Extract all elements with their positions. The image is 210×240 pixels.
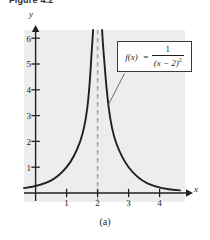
formula-callout-box: f(x) = 1 (x − 2)2	[117, 41, 192, 72]
formula-denominator-exponent: 2	[179, 57, 182, 63]
x-axis-arrowhead	[186, 189, 193, 196]
figure-container: Figure 4.2	[0, 0, 210, 240]
formula-fraction-bar	[152, 55, 184, 56]
callout-leader-line	[109, 74, 125, 105]
y-tick-label-2: 2	[19, 137, 31, 147]
formula-denominator: (x − 2)2	[152, 57, 184, 68]
x-tick-label-4: 4	[153, 198, 167, 208]
formula-equals-sign: =	[143, 52, 149, 62]
formula-expression: f(x) = 1 (x − 2)2	[118, 42, 191, 71]
x-tick-label-3: 3	[122, 198, 136, 208]
y-tick-label-5: 5	[19, 59, 31, 69]
formula-fraction: 1 (x − 2)2	[152, 45, 184, 69]
formula-function-name: f(x)	[125, 52, 138, 62]
x-tick-label-2: 2	[91, 198, 105, 208]
y-tick-label-4: 4	[19, 85, 31, 95]
y-axis-arrowhead	[32, 25, 39, 32]
x-tick-label-1: 1	[60, 198, 74, 208]
y-tick-label-1: 1	[19, 163, 31, 173]
y-tick-label-3: 3	[19, 111, 31, 121]
y-tick-label-6: 6	[19, 34, 31, 44]
x-axis-label: x	[194, 184, 198, 194]
y-axis-label: y	[29, 9, 33, 19]
curve-left-branch	[24, 30, 93, 188]
plot-canvas	[0, 0, 210, 240]
figure-sub-caption: (a)	[0, 216, 210, 227]
formula-denominator-base: (x − 2)	[154, 58, 179, 68]
formula-numerator: 1	[163, 45, 174, 54]
